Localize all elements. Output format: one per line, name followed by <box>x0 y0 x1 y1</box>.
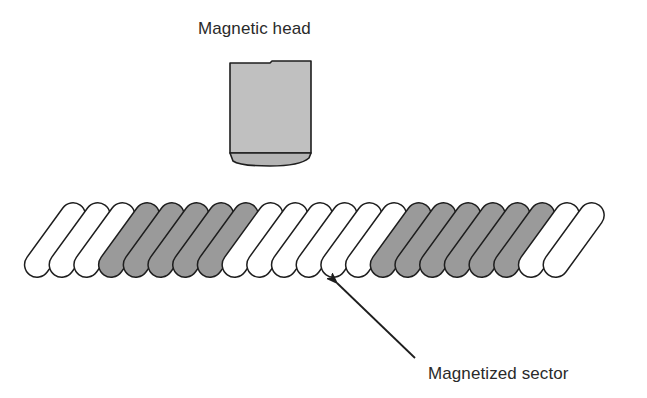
magnetic-head-label: Magnetic head <box>198 19 311 39</box>
magnetic-head <box>230 61 311 166</box>
magnetic-head-body <box>230 61 311 153</box>
magnetic-medium-strip <box>20 198 609 282</box>
diagram-canvas <box>0 0 647 398</box>
magnetic-head-tip <box>230 153 311 166</box>
magnetized-sector-label: Magnetized sector <box>428 364 569 384</box>
pointer-arrow <box>337 283 415 358</box>
